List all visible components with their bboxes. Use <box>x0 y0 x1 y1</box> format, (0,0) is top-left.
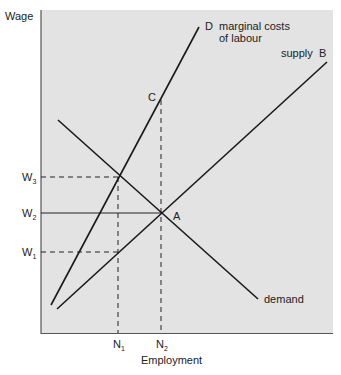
mc-label-line1: marginal costs <box>219 20 290 32</box>
point-a-label: A <box>173 210 181 222</box>
n1-label: N1 <box>113 338 125 352</box>
supply-letter-label: B <box>319 47 326 59</box>
labour-market-diagram: Wage Employment W3 W2 W1 N1 N2 D margina… <box>0 0 341 375</box>
y-axis-label: Wage <box>5 10 33 22</box>
demand-label: demand <box>264 293 304 305</box>
x-axis-label: Employment <box>141 354 202 366</box>
mc-letter-label: D <box>205 20 213 32</box>
mc-label-line2: of labour <box>219 32 262 44</box>
w2-label: W2 <box>22 207 36 221</box>
n2-label: N2 <box>156 338 168 352</box>
w3-label: W3 <box>22 171 36 185</box>
supply-label: supply <box>281 47 313 59</box>
point-c-label: C <box>148 91 156 103</box>
w1-label: W1 <box>22 246 36 260</box>
